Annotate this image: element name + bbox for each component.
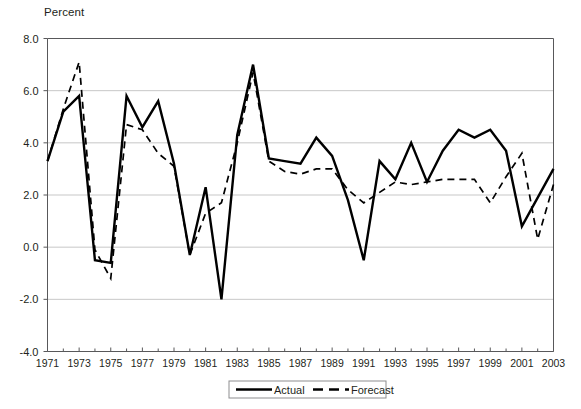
x-tick-label: 1975 (99, 357, 123, 369)
x-tick-label: 1995 (415, 357, 439, 369)
x-tick-label: 1989 (320, 357, 344, 369)
y-tick-label: 0.0 (23, 241, 38, 253)
x-tick-label: 2003 (542, 357, 566, 369)
legend-label-actual: Actual (274, 384, 305, 396)
legend-label-forecast: Forecast (351, 384, 394, 396)
x-tick-label: 1985 (257, 357, 281, 369)
x-tick-label: 1997 (447, 357, 471, 369)
x-tick-label: 1971 (36, 357, 60, 369)
y-axis-ticks: 8.06.04.02.00.0-2.0-4.0 (20, 33, 48, 358)
x-tick-label: 1991 (352, 357, 376, 369)
series-line-forecast (48, 62, 554, 278)
x-tick-label: 1973 (67, 357, 91, 369)
chart-legend: Actual Forecast (229, 381, 394, 398)
x-tick-label: 1981 (194, 357, 218, 369)
y-tick-label: 2.0 (23, 189, 38, 201)
x-tick-label: 1993 (384, 357, 408, 369)
x-axis-ticks: 1971197319751977197919811983198519871989… (36, 348, 566, 369)
x-tick-label: 1979 (162, 357, 186, 369)
y-tick-label: 8.0 (23, 33, 38, 45)
y-tick-label: 6.0 (23, 85, 38, 97)
x-tick-label: 1999 (479, 357, 503, 369)
line-chart-plot: 8.06.04.02.00.0-2.0-4.0 1971197319751977… (0, 0, 581, 409)
chart-figure: Percent 8.06.04.02.00.0-2.0-4.0 19711973… (0, 0, 581, 409)
y-tick-label: 4.0 (23, 137, 38, 149)
x-tick-label: 2001 (510, 357, 534, 369)
x-tick-label: 1983 (226, 357, 250, 369)
x-tick-label: 1987 (289, 357, 313, 369)
x-tick-label: 1977 (131, 357, 155, 369)
y-tick-label: -2.0 (20, 293, 39, 305)
series-line-actual (48, 65, 554, 300)
